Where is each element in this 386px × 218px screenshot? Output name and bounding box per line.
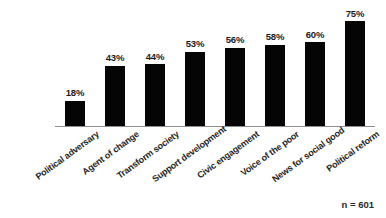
sample-size-annotation: n = 601 [342, 199, 374, 210]
bar [225, 48, 245, 126]
bar-value-label: 60% [295, 29, 335, 40]
x-tick-label-news-for-social-good: News for social good [270, 129, 341, 184]
bar [105, 66, 125, 126]
x-tick-label-transform-society: Transform society [110, 129, 181, 184]
bar [65, 101, 85, 126]
bar-slot: 53% [175, 14, 215, 126]
bar-value-label: 44% [135, 51, 175, 62]
bar-value-label: 53% [175, 38, 215, 49]
bar-slot: 44% [135, 14, 175, 126]
x-tick-label-political-adversary: Political adversary [30, 129, 101, 184]
x-tick-label-support-development: Support development [150, 129, 221, 184]
bar-value-label: 75% [335, 8, 375, 19]
bar [185, 52, 205, 126]
bar [305, 42, 325, 126]
plot-area: 18% 43% 44% 53% 56% 58% 60% 75% [55, 14, 375, 126]
x-tick-label-voice-of-the-poor: Voice of the poor [230, 129, 301, 184]
x-tick-label-civic-engagement: Civic engagement [190, 129, 261, 184]
x-tick-label-agent-of-change: Agent of change [70, 129, 141, 184]
bar-slot: 43% [95, 14, 135, 126]
bar-value-label: 43% [95, 52, 135, 63]
bar-slot: 60% [295, 14, 335, 126]
bar-value-label: 56% [215, 34, 255, 45]
bar-value-label: 58% [255, 31, 295, 42]
bar [265, 45, 285, 126]
x-tick-label-political-reform: Political reform [310, 129, 381, 184]
bar [145, 64, 165, 126]
x-axis-tick-labels: Political adversary Agent of change Tran… [55, 127, 375, 197]
bar-slot: 56% [215, 14, 255, 126]
bar-slot: 58% [255, 14, 295, 126]
bar-slot: 18% [55, 14, 95, 126]
bar [345, 21, 365, 126]
bar-value-label: 18% [55, 87, 95, 98]
bar-slot: 75% [335, 14, 375, 126]
bar-chart: 18% 43% 44% 53% 56% 58% 60% 75% [0, 0, 386, 218]
